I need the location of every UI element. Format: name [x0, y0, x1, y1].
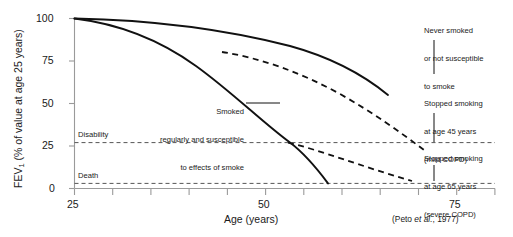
curve-stopped-at-45	[222, 52, 424, 150]
fletcher-peto-chart: FEV1 (% of value at age 25 years) 100 75…	[0, 0, 513, 237]
annotation-smoked-regularly-line2: regularly and susceptible	[126, 135, 244, 144]
y-axis-title-subscript: 1	[17, 163, 26, 167]
y-tick-label-100: 100	[36, 12, 54, 24]
annotation-stopped-65-line2: at age 65 years	[424, 182, 483, 191]
annotation-stopped-45-line2: at age 45 years	[424, 127, 483, 136]
curve-stopped-at-65	[288, 143, 412, 181]
annotation-stopped-65-line3: (severe COPD)	[424, 210, 483, 219]
y-axis-title-rest: (% of value at age 25 years)	[12, 29, 24, 163]
annotation-stopped-65: Stopped smoking at age 65 years (severe …	[424, 136, 483, 237]
curve-never-smoked	[75, 19, 389, 96]
y-tick-label-50: 50	[42, 97, 54, 109]
y-axis-title: FEV1 (% of value at age 25 years)	[12, 29, 26, 188]
annotation-stopped-65-line1: Stopped smoking	[424, 154, 483, 163]
y-tick-marks	[69, 19, 75, 189]
x-axis-title: Age (years)	[224, 213, 278, 225]
x-tick-label-25: 25	[67, 198, 79, 210]
annotation-stopped-45-line1: Stopped smoking	[424, 99, 483, 108]
y-tick-label-0: 0	[49, 182, 55, 194]
annotation-never-smoked-line2: or not susceptible	[424, 54, 484, 63]
citation-prefix: (Peto	[392, 214, 414, 224]
death-label: Death	[78, 171, 98, 180]
disability-label: Disability	[78, 130, 108, 139]
y-tick-label-75: 75	[42, 54, 54, 66]
annotation-smoked-regularly-line3: to effects of smoke	[126, 163, 244, 172]
annotation-never-smoked-line1: Never smoked	[424, 26, 484, 35]
annotation-smoked-regularly-line1: Smoked	[126, 107, 244, 116]
x-tick-label-50: 50	[258, 198, 270, 210]
y-axis-title-text: FEV	[12, 168, 24, 188]
annotation-smoked-regularly: Smoked regularly and susceptible to effe…	[126, 89, 244, 190]
y-tick-label-25: 25	[42, 139, 54, 151]
